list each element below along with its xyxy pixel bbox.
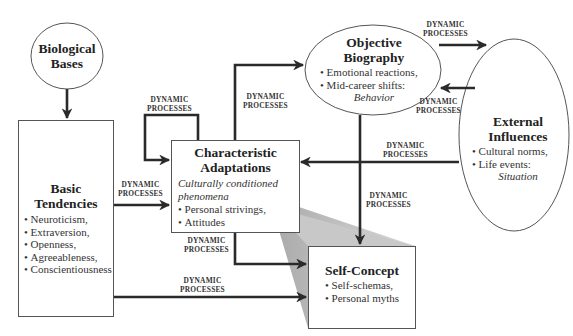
list-item: Agreeableness,	[24, 251, 113, 264]
edge-label-biography-to-external: DYNAMIC PROCESSES	[423, 20, 468, 38]
external-footer: Situation	[470, 170, 566, 183]
edge-label-external-to-adaptations: DYNAMIC PROCESSES	[383, 141, 428, 159]
edge-label-line2: PROCESSES	[243, 101, 288, 110]
external-title-line2: Influences	[470, 129, 566, 144]
adaptations-subtitle-line2: phenomena	[172, 190, 299, 203]
edge-label-line1: DYNAMIC	[243, 92, 288, 101]
list-item: Emotional reactions,	[320, 66, 430, 79]
node-external-influences: External Influences Cultural norms, Life…	[470, 114, 566, 183]
edge-label-adaptations-to-biography: DYNAMIC PROCESSES	[243, 92, 288, 110]
edge-label-line1: DYNAMIC	[147, 95, 192, 104]
list-item: Mid-career shifts:	[320, 79, 430, 92]
edge-label-line1: DYNAMIC	[366, 191, 411, 200]
edge-label-adaptations-to-selfconcept: DYNAMIC PROCESSES	[184, 236, 229, 254]
biography-title-line2: Biography	[318, 50, 430, 65]
list-item: Cultural norms,	[472, 145, 566, 158]
edge-label-biography-to-selfconcept: DYNAMIC PROCESSES	[366, 191, 411, 209]
biography-list: Emotional reactions, Mid-career shifts:	[318, 66, 430, 91]
adaptations-subtitle-line1: Culturally conditioned	[172, 177, 299, 190]
list-item: Life events:	[472, 158, 566, 171]
list-item: Self-schemas,	[325, 279, 415, 292]
edge-label-basic-to-adaptations: DYNAMIC PROCESSES	[118, 180, 163, 198]
list-item: Personal strivings,	[178, 203, 299, 216]
edge-label-line2: PROCESSES	[180, 285, 225, 294]
edge-label-line1: DYNAMIC	[416, 97, 461, 106]
edge-label-external-to-biography: DYNAMIC PROCESSES	[416, 97, 461, 115]
external-list: Cultural norms, Life events:	[470, 145, 566, 170]
edge-label-line2: PROCESSES	[147, 104, 192, 113]
node-basic-tendencies: Basic Tendencies Neuroticism, Extraversi…	[18, 120, 114, 317]
selfconcept-list: Self-schemas, Personal myths	[309, 279, 415, 304]
edge-label-line2: PROCESSES	[416, 106, 461, 115]
list-item: Attitudes	[178, 216, 299, 229]
node-biological-bases: Biological Bases	[31, 41, 103, 71]
node-objective-biography: Objective Biography Emotional reactions,…	[318, 35, 430, 104]
basic-tendencies-title-line1: Basic	[19, 181, 113, 196]
edge-label-line1: DYNAMIC	[383, 141, 428, 150]
edge-label-line2: PROCESSES	[423, 29, 468, 38]
edge-label-line2: PROCESSES	[383, 150, 428, 159]
edge-label-line1: DYNAMIC	[180, 276, 225, 285]
biography-footer: Behavior	[318, 91, 430, 104]
list-item: Openness,	[24, 238, 113, 251]
edge-label-self-loop: DYNAMIC PROCESSES	[147, 95, 192, 113]
external-title-line1: External	[470, 114, 566, 129]
edge-label-line2: PROCESSES	[366, 200, 411, 209]
edge-label-line1: DYNAMIC	[118, 180, 163, 189]
edge-label-line2: PROCESSES	[118, 189, 163, 198]
edge-label-basic-to-selfconcept: DYNAMIC PROCESSES	[180, 276, 225, 294]
node-self-concept: Self-Concept Self-schemas, Personal myth…	[308, 246, 416, 329]
list-item: Conscientiousness	[24, 263, 113, 276]
biography-title-line1: Objective	[318, 35, 430, 50]
adaptations-title-line1: Characteristic	[172, 145, 299, 160]
node-characteristic-adaptations: Characteristic Adaptations Culturally co…	[171, 140, 300, 233]
list-item: Neuroticism,	[24, 213, 113, 226]
basic-tendencies-title-line2: Tendencies	[19, 196, 113, 211]
biological-bases-title-line1: Biological	[31, 41, 103, 56]
list-item: Extraversion,	[24, 226, 113, 239]
selfconcept-title: Self-Concept	[309, 263, 415, 278]
adaptations-title-line2: Adaptations	[172, 160, 299, 175]
edge-label-line1: DYNAMIC	[423, 20, 468, 29]
adaptations-list: Personal strivings, Attitudes	[172, 203, 299, 228]
basic-tendencies-list: Neuroticism, Extraversion, Openness, Agr…	[19, 213, 113, 276]
edge-label-line1: DYNAMIC	[184, 236, 229, 245]
biological-bases-title-line2: Bases	[31, 56, 103, 71]
list-item: Personal myths	[325, 292, 415, 305]
edge-label-line2: PROCESSES	[184, 245, 229, 254]
